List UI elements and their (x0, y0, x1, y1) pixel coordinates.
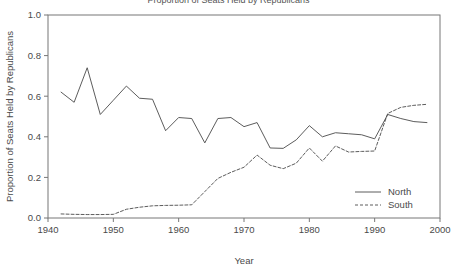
x-tick-label: 1960 (168, 224, 189, 235)
y-tick-label: 0.6 (28, 91, 41, 102)
x-tick-label: 2000 (429, 224, 450, 235)
chart-legend: NorthSouth (355, 186, 413, 210)
legend-label-north: North (388, 186, 411, 197)
y-tick-label: 0.0 (28, 212, 41, 223)
x-tick-label: 1990 (364, 224, 385, 235)
y-axis-ticks: 0.00.20.40.60.81.0 (28, 9, 48, 223)
x-axis-title: Year (234, 255, 253, 266)
chart-title: Proportion of Seats Held by Republicans (0, 0, 457, 5)
series-line-north (61, 68, 427, 149)
legend-label-south: South (388, 199, 413, 210)
y-axis-title: Proportion of Seats Held by Republicans (4, 31, 15, 202)
y-tick-label: 0.2 (28, 172, 41, 183)
plot-frame (48, 15, 440, 218)
y-tick-label: 1.0 (28, 9, 41, 20)
x-tick-label: 1950 (103, 224, 124, 235)
y-tick-label: 0.8 (28, 50, 41, 61)
chart-figure: Proportion of Seats Held by Republicans … (0, 0, 457, 275)
x-tick-label: 1970 (233, 224, 254, 235)
y-tick-label: 0.4 (28, 131, 41, 142)
line-chart-plot: 0.00.20.40.60.81.0 194019501960197019801… (0, 0, 457, 275)
x-axis-ticks: 1940195019601970198019902000 (37, 218, 450, 235)
x-tick-label: 1940 (37, 224, 58, 235)
series-line-south (61, 104, 427, 214)
x-tick-label: 1980 (299, 224, 320, 235)
